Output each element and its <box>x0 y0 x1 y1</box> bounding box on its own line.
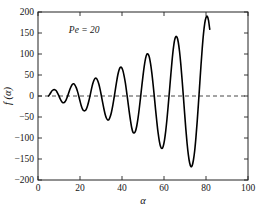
annotation-group: Pe = 20 <box>68 25 100 35</box>
svg-text:100: 100 <box>20 49 35 59</box>
y-axis-title: f (α) <box>2 86 14 105</box>
svg-text:0: 0 <box>29 91 34 101</box>
svg-text:50: 50 <box>25 70 35 80</box>
chart-figure: 020406080100 200150100500−50−100−150−200… <box>0 0 261 215</box>
oscillation-plot: 020406080100 200150100500−50−100−150−200… <box>0 0 261 215</box>
svg-text:−200: −200 <box>14 175 34 185</box>
svg-text:150: 150 <box>20 28 35 38</box>
svg-text:20: 20 <box>75 183 85 193</box>
svg-text:0: 0 <box>36 183 41 193</box>
svg-text:40: 40 <box>117 183 127 193</box>
svg-text:−100: −100 <box>14 133 34 143</box>
svg-text:100: 100 <box>241 183 256 193</box>
svg-text:80: 80 <box>201 183 211 193</box>
annotation-pe-value: Pe = 20 <box>68 25 100 35</box>
svg-text:−50: −50 <box>19 112 34 122</box>
svg-text:−150: −150 <box>14 154 34 164</box>
svg-text:200: 200 <box>20 7 35 17</box>
x-axis-title: α <box>140 195 146 206</box>
svg-text:60: 60 <box>159 183 169 193</box>
